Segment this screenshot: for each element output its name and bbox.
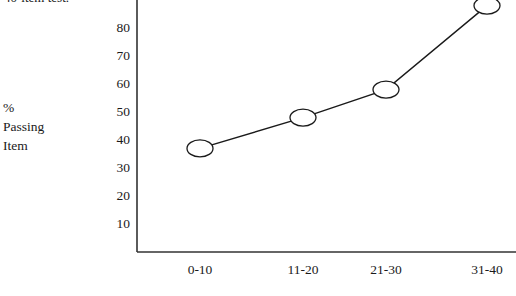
data-point-11-20 (290, 109, 316, 126)
data-line (200, 6, 487, 149)
data-point-31-40 (474, 0, 500, 14)
data-point-0-10 (187, 140, 213, 157)
plot-area (0, 0, 516, 296)
data-markers (187, 0, 500, 157)
data-point-21-30 (373, 81, 399, 98)
chart-figure: 40-item test. % Passing Item 80706050403… (0, 0, 516, 296)
